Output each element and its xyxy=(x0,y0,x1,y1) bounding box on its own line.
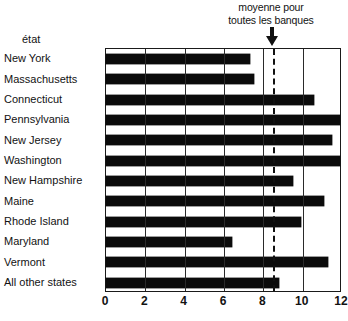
bar-series xyxy=(106,49,340,291)
bar xyxy=(106,115,340,125)
category-label: Connecticut xyxy=(4,93,100,105)
x-tick-label: 10 xyxy=(295,294,308,308)
gridline-x-4 xyxy=(185,49,186,291)
annotation-line-2: toutes les banques xyxy=(196,14,346,27)
x-axis-tick-labels: 024681012 xyxy=(105,294,341,310)
gridline-x-10 xyxy=(303,49,304,291)
bar xyxy=(106,95,314,105)
axis-title-etat: état xyxy=(22,33,40,45)
gridline-x-2 xyxy=(145,49,146,291)
category-label: Pennsylvania xyxy=(4,113,100,125)
x-tick-label: 4 xyxy=(180,294,187,308)
gridline-x-8 xyxy=(263,49,264,291)
category-label: Washington xyxy=(4,154,100,166)
category-label: New Jersey xyxy=(4,134,100,146)
average-dashed-line xyxy=(273,49,275,291)
category-label: New Hampshire xyxy=(4,174,100,186)
bar xyxy=(106,135,332,145)
bar-row xyxy=(106,90,340,110)
x-tick-label: 0 xyxy=(102,294,109,308)
bar-row xyxy=(106,69,340,89)
category-label: Massachusetts xyxy=(4,73,100,85)
bar-row xyxy=(106,110,340,130)
annotation-line-1: moyenne pour xyxy=(238,1,303,13)
page-bottom-fragment xyxy=(0,313,348,321)
bar-row xyxy=(106,171,340,191)
x-tick-label: 6 xyxy=(220,294,227,308)
down-arrow-icon xyxy=(265,27,279,46)
bar xyxy=(106,74,254,84)
category-label: Rhode Island xyxy=(4,215,100,227)
bar-row xyxy=(106,212,340,232)
bar xyxy=(106,54,250,64)
chart-figure: moyenne pour toutes les banques état New… xyxy=(0,0,348,321)
bar-row xyxy=(106,130,340,150)
bar xyxy=(106,217,301,227)
x-tick-label: 12 xyxy=(334,294,347,308)
category-label: Maryland xyxy=(4,235,100,247)
gridline-x-6 xyxy=(224,49,225,291)
x-tick-label: 8 xyxy=(259,294,266,308)
category-label: Maine xyxy=(4,195,100,207)
bar xyxy=(106,156,340,166)
category-label: New York xyxy=(4,52,100,64)
bar-row xyxy=(106,252,340,272)
bar xyxy=(106,176,293,186)
bar-row xyxy=(106,191,340,211)
bar-row xyxy=(106,232,340,252)
category-label: All other states xyxy=(4,276,100,288)
x-tick-label: 2 xyxy=(141,294,148,308)
category-label: Vermont xyxy=(4,256,100,268)
bar xyxy=(106,278,279,288)
bar-row xyxy=(106,49,340,69)
bar-row xyxy=(106,151,340,171)
bar xyxy=(106,196,324,206)
average-annotation: moyenne pour toutes les banques xyxy=(196,1,346,26)
category-label-list: New YorkMassachusettsConnecticutPennsylv… xyxy=(0,48,103,292)
plot-area xyxy=(105,48,341,292)
bar-row xyxy=(106,273,340,293)
bar xyxy=(106,257,328,267)
bar xyxy=(106,237,232,247)
